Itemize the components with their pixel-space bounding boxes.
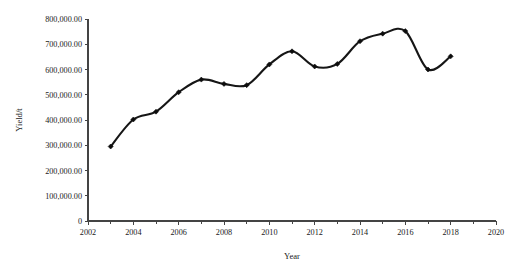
x-axis-tick-label: 2004 xyxy=(125,228,141,237)
line-chart: 0100,000.00200,000.00300,000.00400,000.0… xyxy=(0,0,508,269)
data-point-marker xyxy=(380,31,385,36)
y-axis-tick-label: 200,000.00 xyxy=(45,167,82,176)
y-axis-tick-label: 800,000.00 xyxy=(45,15,82,24)
y-axis-tick-group: 0100,000.00200,000.00300,000.00400,000.0… xyxy=(45,15,88,226)
y-axis-title: Yield/t xyxy=(14,108,24,132)
y-axis-tick-label: 300,000.00 xyxy=(45,141,82,150)
y-axis-tick-label: 400,000.00 xyxy=(45,116,82,125)
x-axis-tick-label: 2012 xyxy=(306,228,322,237)
x-axis-tick-label: 2010 xyxy=(261,228,277,237)
x-axis-tick-label: 2016 xyxy=(397,228,413,237)
series-line-yield xyxy=(111,29,451,147)
x-axis-tick-label: 2002 xyxy=(80,228,96,237)
data-point-marker xyxy=(222,81,227,86)
y-axis-tick-label: 0 xyxy=(78,217,82,226)
x-axis-tick-label: 2014 xyxy=(352,228,368,237)
y-axis-tick-label: 500,000.00 xyxy=(45,91,82,100)
x-axis-tick-group: 2002200420062008201020122014201620182020 xyxy=(80,221,504,237)
y-axis-tick-label: 700,000.00 xyxy=(45,40,82,49)
series-marker-group xyxy=(108,29,453,149)
y-axis-tick-label: 600,000.00 xyxy=(45,66,82,75)
data-point-marker xyxy=(199,77,204,82)
data-point-marker xyxy=(290,49,295,54)
x-axis-tick-label: 2018 xyxy=(442,228,458,237)
x-axis-tick-label: 2008 xyxy=(216,228,232,237)
x-axis-tick-label: 2020 xyxy=(488,228,504,237)
chart-container: 0100,000.00200,000.00300,000.00400,000.0… xyxy=(0,0,508,269)
y-axis-tick-label: 100,000.00 xyxy=(45,192,82,201)
x-axis-title: Year xyxy=(284,251,300,261)
x-axis-tick-label: 2006 xyxy=(170,228,186,237)
